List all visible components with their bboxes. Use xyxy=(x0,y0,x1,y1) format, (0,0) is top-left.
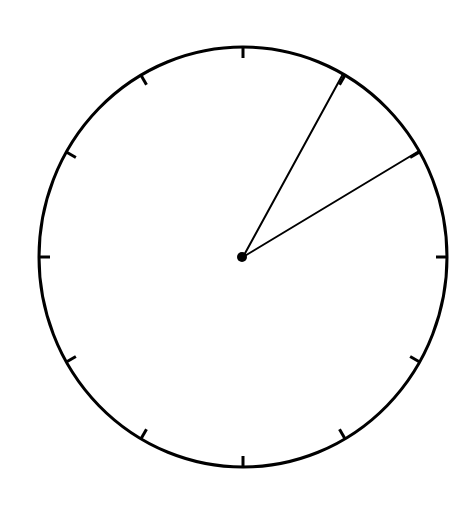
tick-mark xyxy=(340,429,346,439)
tick-mark xyxy=(66,152,76,158)
tick-mark xyxy=(141,429,147,439)
clock-hands xyxy=(243,74,419,257)
tick-mark xyxy=(410,357,420,363)
hand-b xyxy=(243,151,419,257)
tick-mark xyxy=(141,75,147,85)
center-dot xyxy=(237,252,247,262)
clock-face xyxy=(0,0,473,508)
hand-a xyxy=(243,74,343,257)
tick-mark xyxy=(66,357,76,363)
